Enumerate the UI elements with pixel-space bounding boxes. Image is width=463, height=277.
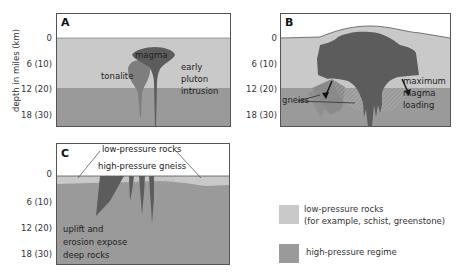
tick-0: 0	[237, 33, 277, 43]
legend-swatch-high-pressure	[279, 244, 299, 263]
panel-a-caption-1: early	[181, 61, 202, 73]
tick-12: 12 (20)	[12, 84, 52, 94]
panel-c-caption-3: deep rocks	[63, 249, 109, 261]
tonalite-label: tonalite	[101, 70, 133, 82]
panel-b-caption-3: loading	[403, 99, 434, 111]
tick-12: 12 (20)	[237, 84, 277, 94]
legend-label-high-pressure: high-pressure regime	[306, 246, 397, 258]
panel-b-caption-1: maximum	[403, 75, 446, 87]
tick-6: 6 (10)	[12, 59, 52, 69]
tick-0: 0	[12, 169, 52, 179]
legend-label-low-pressure-2: (for example, schist, greenstone)	[304, 215, 445, 227]
panel-a-caption-2: pluton	[181, 73, 208, 85]
tick-6: 6 (10)	[12, 197, 52, 207]
panel-c-caption-1: uplift and	[63, 223, 103, 235]
low-pressure-rocks-label: low-pressure rocks	[102, 143, 182, 155]
panel-b-letter: B	[285, 16, 293, 29]
panel-a-graphic	[56, 13, 231, 127]
tick-18: 18 (30)	[12, 110, 52, 120]
legend-swatch-low-pressure	[279, 205, 299, 224]
tick-18: 18 (30)	[12, 249, 52, 259]
tick-0: 0	[12, 33, 52, 43]
tick-6: 6 (10)	[237, 59, 277, 69]
tick-18: 18 (30)	[237, 110, 277, 120]
magma-label: magma	[135, 49, 167, 61]
legend-label-low-pressure-1: low-pressure rocks	[304, 203, 384, 215]
tick-12: 12 (20)	[12, 223, 52, 233]
panel-a-caption-3: intrusion	[181, 85, 218, 97]
high-pressure-gneiss-label: high-pressure gneiss	[98, 160, 186, 172]
panel-c-caption-2: erosion expose	[63, 236, 127, 248]
panel-b-caption-2: magma	[403, 87, 435, 99]
panel-c-letter: C	[61, 147, 69, 160]
panel-a-letter: A	[61, 16, 70, 29]
gneiss-label: gneiss	[282, 94, 309, 106]
